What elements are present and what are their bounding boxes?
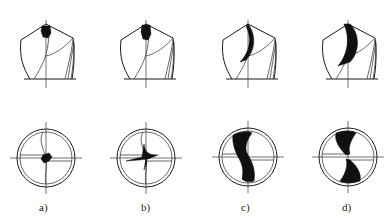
panel-a-side-view (20, 20, 76, 88)
panel-a-end-view (10, 122, 82, 194)
panel-c-end-view (212, 121, 284, 193)
panel-b-side-view (120, 20, 176, 88)
panel-c-label: c) (241, 201, 250, 213)
panel-d-label: d) (342, 201, 351, 213)
panel-b-label: b) (141, 201, 150, 213)
panel-d-side-view (322, 20, 378, 88)
panel-c-side-view (222, 20, 278, 88)
panel-b-end-view (110, 122, 182, 194)
panel-d-end-view (312, 121, 384, 193)
panel-a-label: a) (39, 201, 48, 213)
drill-thinning-figure (0, 0, 388, 224)
